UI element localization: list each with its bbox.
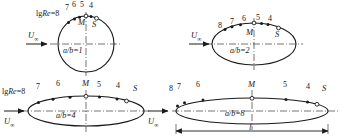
panel-ab2-point-label-4: 4 bbox=[268, 15, 272, 23]
panel-ab1-point-label-4: 4 bbox=[89, 2, 93, 10]
panel-ab1-point-label-7: 7 bbox=[65, 4, 69, 12]
panel-ab2-point-label-7: 7 bbox=[230, 18, 234, 26]
panel-ab2-aspect-label: a/b=2 bbox=[230, 47, 250, 55]
panel-ab1-s-label: S bbox=[92, 20, 96, 29]
panel-ab8-m-label: M bbox=[248, 80, 255, 89]
panel-ab1-point-label-5: 5 bbox=[80, 1, 84, 9]
panel-ab4-flow-label-right: U∞ bbox=[148, 117, 158, 128]
panel-ab4-s-label: S bbox=[133, 84, 137, 93]
panel-ab4-point-label-5: 5 bbox=[97, 81, 101, 89]
panel-ab4-m-label: M bbox=[82, 79, 89, 88]
panel-ab2-m-label: M bbox=[246, 28, 253, 37]
panel-ab1-aspect-label: a/b=1 bbox=[63, 47, 83, 55]
panel-ab1-point-label-6: 6 bbox=[72, 1, 76, 9]
panel-ab4-point-label-6: 6 bbox=[56, 80, 60, 88]
panel-ab8-dimension-label: l bbox=[249, 123, 251, 132]
panel-ab4-graphic bbox=[4, 90, 168, 132]
panel-ab2-s-label: S bbox=[275, 30, 279, 39]
panel-ab4-re-label: lgRe=8 bbox=[2, 88, 25, 96]
panel-ab4-flow-label-left: U∞ bbox=[4, 117, 14, 128]
panel-ab8-point-label-4: 4 bbox=[306, 83, 310, 91]
panel-ab8-s-label: S bbox=[322, 84, 326, 93]
panel-ab4-point-label-7: 7 bbox=[36, 83, 40, 91]
figure-canvas: lgRe=8 7 6 5 4 M S U∞ a/b=1 8 7 6 5 4 M … bbox=[0, 0, 344, 138]
diagram-svg bbox=[0, 0, 344, 138]
panel-ab2-point-label-6: 6 bbox=[242, 15, 246, 23]
panel-ab8-point-label-7: 7 bbox=[177, 83, 181, 91]
panel-ab8-point-label-6: 6 bbox=[196, 81, 200, 89]
panel-ab2-point-label-8: 8 bbox=[218, 22, 222, 30]
panel-ab2-flow-label: U∞ bbox=[191, 31, 201, 42]
panel-ab4-point-label-4: 4 bbox=[116, 82, 120, 90]
panel-ab8-aspect-label: a/b=8 bbox=[225, 110, 245, 118]
panel-ab8-point-label-5: 5 bbox=[283, 81, 287, 89]
panel-ab1-flow-label: U∞ bbox=[28, 31, 38, 42]
panel-ab4-aspect-label: a/b=4 bbox=[56, 112, 76, 120]
panel-ab8-point-label-8: 8 bbox=[169, 85, 173, 93]
panel-ab1-re-label: lgRe=8 bbox=[36, 10, 59, 18]
panel-ab2-point-label-5: 5 bbox=[256, 14, 260, 22]
panel-ab8-graphic bbox=[172, 90, 340, 134]
panel-ab1-m-label: M bbox=[78, 18, 85, 27]
panel-ab1-graphic bbox=[26, 12, 122, 76]
panel-ab2-graphic bbox=[189, 18, 303, 70]
